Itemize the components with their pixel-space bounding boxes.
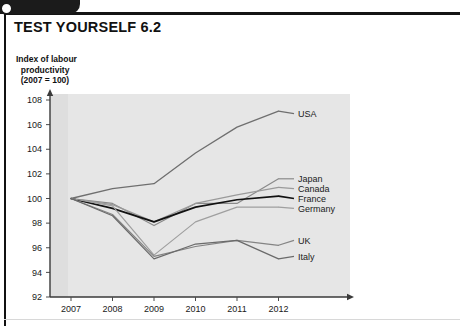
svg-text:94: 94 [32, 268, 42, 278]
line-chart: 9294969810010210410610820072008200920102… [0, 88, 400, 318]
series-label-italy: Italy [298, 252, 315, 262]
svg-text:108: 108 [27, 95, 42, 105]
y-axis-title: Index of labour productivity (2007 = 100… [16, 54, 77, 86]
chart-canvas: 9294969810010210410610820072008200920102… [0, 88, 400, 318]
svg-text:2007: 2007 [61, 304, 81, 314]
corner-dot [0, 2, 13, 15]
figure-caption [150, 318, 456, 326]
series-label-japan: Japan [298, 174, 323, 184]
svg-text:2011: 2011 [227, 304, 246, 314]
textbook-page: TEST YOURSELF 6.2 Index of labour produc… [0, 0, 460, 326]
svg-text:102: 102 [27, 169, 42, 179]
svg-text:100: 100 [27, 194, 42, 204]
svg-text:96: 96 [32, 243, 42, 253]
svg-text:92: 92 [32, 292, 42, 302]
svg-text:2010: 2010 [185, 304, 205, 314]
header-rule-right [80, 12, 460, 14]
page-title: TEST YOURSELF 6.2 [14, 19, 161, 35]
svg-text:98: 98 [32, 218, 42, 228]
svg-text:106: 106 [27, 120, 42, 130]
series-label-germany: Germany [298, 204, 336, 214]
series-label-canada: Canada [298, 184, 330, 194]
series-label-france: France [298, 194, 326, 204]
series-label-uk: UK [298, 236, 311, 246]
series-label-usa: USA [298, 109, 317, 119]
svg-text:2008: 2008 [102, 304, 122, 314]
svg-text:2009: 2009 [144, 304, 164, 314]
svg-text:104: 104 [27, 144, 42, 154]
svg-text:2012: 2012 [268, 304, 288, 314]
